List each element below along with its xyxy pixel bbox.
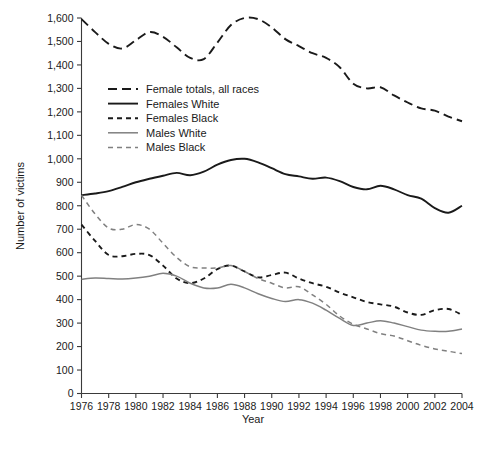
x-tick-label: 1982 — [151, 400, 175, 412]
y-tick-label: 1,100 — [47, 129, 73, 141]
legend-label: Females Black — [146, 112, 219, 124]
x-tick-label: 2004 — [450, 400, 474, 412]
y-axis-ticks: 01002003004005006007008009001,0001,1001,… — [47, 12, 81, 400]
legend: Female totals, all racesFemales WhiteFem… — [108, 83, 260, 153]
caption-ghost-line — [0, 440, 494, 450]
x-tick-label: 1980 — [124, 400, 148, 412]
legend-label: Males White — [146, 127, 207, 139]
y-tick-label: 300 — [56, 317, 74, 329]
x-axis-title: Year — [242, 413, 265, 425]
series-line — [82, 225, 463, 315]
x-tick-label: 1990 — [260, 400, 284, 412]
series-line — [82, 18, 463, 122]
x-tick-label: 1998 — [369, 400, 393, 412]
x-tick-label: 1976 — [70, 400, 94, 412]
x-tick-label: 2002 — [423, 400, 447, 412]
x-tick-label: 1994 — [314, 400, 338, 412]
x-tick-label: 1988 — [233, 400, 257, 412]
y-tick-label: 1,000 — [47, 153, 73, 165]
line-chart: 01002003004005006007008009001,0001,1001,… — [0, 0, 494, 450]
x-tick-label: 2000 — [396, 400, 420, 412]
y-tick-label: 1,200 — [47, 106, 73, 118]
x-tick-label: 1986 — [206, 400, 230, 412]
series-lines — [82, 18, 463, 354]
y-tick-label: 600 — [56, 246, 74, 258]
legend-label: Female totals, all races — [146, 83, 260, 95]
y-tick-label: 1,500 — [47, 35, 73, 47]
figure-container: 01002003004005006007008009001,0001,1001,… — [0, 0, 494, 450]
y-tick-label: 500 — [56, 270, 74, 282]
y-tick-label: 0 — [68, 387, 74, 399]
series-line — [82, 195, 463, 353]
legend-label: Males Black — [146, 141, 206, 153]
y-axis-title: Number of victims — [14, 161, 26, 250]
y-tick-label: 700 — [56, 223, 74, 235]
x-axis-ticks: 1976197819801982198419861988199019921994… — [70, 394, 474, 412]
series-line — [82, 273, 463, 331]
y-tick-label: 400 — [56, 293, 74, 305]
x-tick-label: 1992 — [287, 400, 311, 412]
x-tick-label: 1984 — [179, 400, 203, 412]
y-tick-label: 200 — [56, 340, 74, 352]
legend-label: Females White — [146, 98, 219, 110]
y-tick-label: 1,300 — [47, 82, 73, 94]
x-tick-label: 1996 — [342, 400, 366, 412]
y-tick-label: 1,600 — [47, 12, 73, 24]
y-tick-label: 800 — [56, 200, 74, 212]
series-line — [82, 159, 463, 213]
x-tick-label: 1978 — [97, 400, 121, 412]
y-tick-label: 900 — [56, 176, 74, 188]
y-tick-label: 100 — [56, 364, 74, 376]
y-tick-label: 1,400 — [47, 59, 73, 71]
